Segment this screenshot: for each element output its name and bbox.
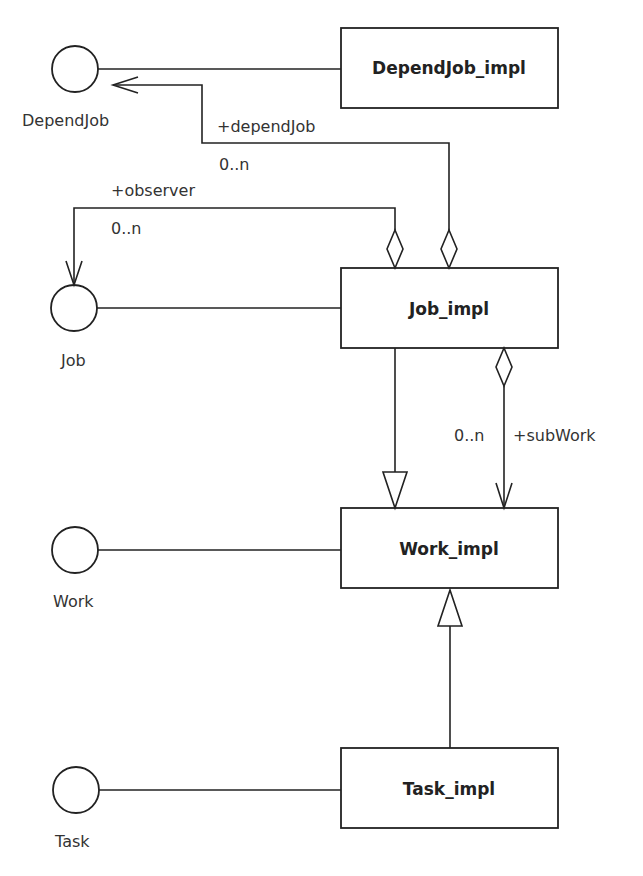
interface-work[interactable]: Work [52, 527, 98, 611]
multiplicity-label-observer: 0..n [111, 219, 142, 238]
hollow-triangle-arrow-icon [438, 590, 462, 626]
uml-class-diagram: DependJob Job Work Task DependJob_impl J… [0, 0, 643, 876]
class-dependjob-impl[interactable]: DependJob_impl [341, 28, 558, 108]
role-label-dependjob: +dependJob [217, 117, 315, 136]
aggregation-subwork: 0..n +subWork [454, 348, 596, 508]
interface-circle-icon [52, 527, 98, 573]
multiplicity-label-subwork: 0..n [454, 426, 485, 445]
interface-dependjob[interactable]: DependJob [22, 46, 109, 130]
interface-label-dependjob: DependJob [22, 111, 109, 130]
interface-label-task: Task [54, 832, 90, 851]
aggregation-diamond-icon [387, 230, 403, 268]
aggregation-diamond-icon [441, 230, 457, 268]
interface-job[interactable]: Job [51, 285, 97, 370]
role-label-subwork: +subWork [513, 426, 596, 445]
class-name-dependjob-impl: DependJob_impl [372, 58, 526, 78]
interface-label-job: Job [60, 351, 86, 370]
interface-task[interactable]: Task [53, 767, 99, 851]
multiplicity-label-dependjob: 0..n [219, 155, 250, 174]
class-name-task-impl: Task_impl [403, 779, 495, 799]
interface-circle-icon [52, 46, 98, 92]
role-label-observer: +observer [111, 181, 195, 200]
generalization-job-to-work [383, 348, 407, 508]
hollow-triangle-arrow-icon [383, 472, 407, 508]
class-name-job-impl: Job_impl [408, 299, 489, 319]
interface-circle-icon [51, 285, 97, 331]
class-name-work-impl: Work_impl [399, 539, 499, 559]
aggregation-diamond-icon [496, 348, 512, 386]
interface-label-work: Work [53, 592, 94, 611]
interface-circle-icon [53, 767, 99, 813]
class-work-impl[interactable]: Work_impl [341, 508, 558, 588]
class-job-impl[interactable]: Job_impl [341, 268, 558, 348]
class-task-impl[interactable]: Task_impl [341, 748, 558, 828]
generalization-task-to-work [438, 590, 462, 748]
